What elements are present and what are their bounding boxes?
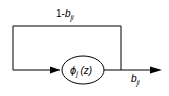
output-label: bji <box>131 73 140 87</box>
node-label: ϕj (z) <box>70 64 92 78</box>
input-arrowhead-icon <box>50 67 60 74</box>
feedback-label: 1-bji <box>56 8 74 22</box>
feedback-loop-diagram: 1-bji ϕj (z) bji <box>0 0 169 96</box>
output-arrowhead-icon <box>150 67 162 74</box>
